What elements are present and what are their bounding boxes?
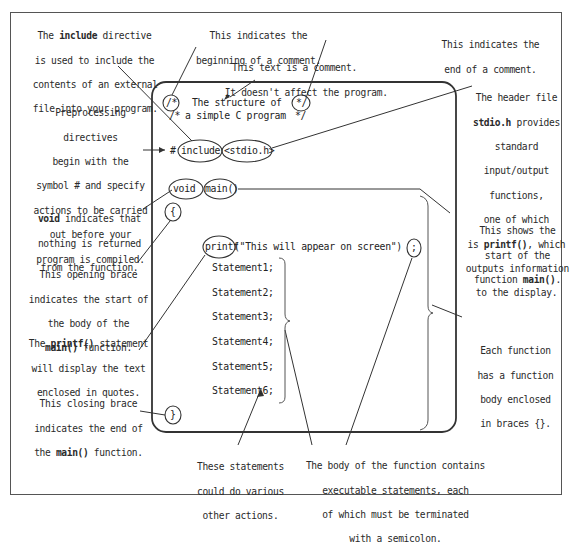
comment-line-2-prefix: /* <box>169 110 180 122</box>
note-closing-brace: This closing brace indicates the end of … <box>18 386 148 459</box>
main-function: main() <box>205 183 239 195</box>
statement-6: Statement6; <box>212 385 274 397</box>
hash-symbol: # <box>170 145 176 157</box>
statement-2: Statement2; <box>212 287 274 299</box>
statement-3: Statement3; <box>212 311 274 323</box>
open-brace: { <box>170 206 176 218</box>
comment-line-2: a simple C program <box>185 110 286 122</box>
note-semicolon: The body of the function contains execut… <box>290 448 490 546</box>
note-comment-end: This indicates the end of a comment. <box>425 27 545 76</box>
statement-1: Statement1; <box>212 262 274 274</box>
include-keyword: include <box>181 145 220 157</box>
note-other-statements: These statements could do various other … <box>180 449 290 522</box>
void-keyword: void <box>173 183 195 195</box>
comment-open-token: /* <box>166 97 177 109</box>
header-file: <stdio.h> <box>224 145 274 157</box>
comment-close-token-2: */ <box>295 110 306 122</box>
semicolon: ; <box>411 242 417 254</box>
note-function-body: Each function has a function body enclos… <box>458 333 562 431</box>
close-brace: } <box>170 409 176 421</box>
statement-5: Statement5; <box>212 361 274 373</box>
note-main-start: This shows the start of the function mai… <box>462 213 562 286</box>
printf-args: ("This will appear on screen") <box>234 241 402 253</box>
statement-4: Statement4; <box>212 336 274 348</box>
note-comment-text: This text is a comment. It doesn't affec… <box>214 50 364 99</box>
